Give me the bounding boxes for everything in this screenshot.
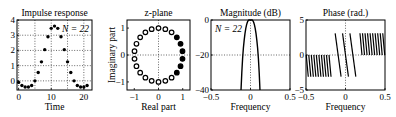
data-point — [43, 48, 46, 51]
data-point — [20, 84, 23, 87]
chart-title: Phase (rad.) — [323, 8, 368, 19]
x-axis-label: Frequency — [325, 102, 365, 112]
data-point — [50, 27, 53, 30]
panel-z-plane: −101−101z-planeReal partImaginary part — [107, 8, 190, 112]
zero-marker — [149, 79, 154, 84]
x-axis-label: Time — [45, 102, 65, 112]
phase-segment — [380, 33, 382, 55]
panel-impulse-response: 0102001234Impulse responseTimeN = 22 — [11, 8, 93, 112]
data-point — [27, 85, 30, 88]
zero-marker — [169, 75, 174, 80]
data-point — [79, 85, 82, 88]
phase-segment — [314, 55, 316, 77]
chart-title: Magnitude (dB) — [220, 8, 281, 19]
zero-marker — [134, 64, 139, 69]
data-point — [17, 81, 20, 84]
x-tick-label: 0.5 — [379, 92, 391, 102]
data-point — [69, 71, 72, 74]
phase-segment — [363, 33, 365, 55]
y-tick-label: 1 — [11, 61, 16, 71]
data-point — [30, 84, 33, 87]
x-tick-label: 0 — [248, 92, 253, 102]
phase-segment — [383, 33, 385, 55]
phase-segment — [319, 55, 321, 77]
y-tick-label: 2 — [11, 45, 16, 55]
zero-marker — [138, 35, 143, 40]
y-tick-label: 4 — [11, 15, 16, 25]
zero-marker-filled — [178, 42, 183, 47]
zero-marker — [132, 49, 137, 54]
x-tick-label: 1 — [180, 92, 185, 102]
zero-marker — [163, 27, 168, 32]
zero-marker — [156, 26, 161, 31]
data-point — [23, 85, 26, 88]
data-point — [33, 79, 36, 82]
annotation-n: N = 22 — [214, 24, 242, 34]
phase-segment — [378, 33, 380, 55]
phase-segment — [324, 55, 326, 77]
phase-segment — [329, 55, 331, 77]
data-point — [66, 60, 69, 63]
x-axis-label: Real part — [141, 102, 176, 112]
data-point — [40, 60, 43, 63]
zero-marker — [143, 75, 148, 80]
zero-marker — [132, 57, 137, 62]
y-tick-label: −20 — [195, 50, 210, 60]
y-tick-label: 3 — [11, 30, 16, 40]
zero-marker — [138, 70, 143, 75]
zero-marker — [143, 30, 148, 35]
zero-marker — [134, 42, 139, 47]
data-point — [63, 48, 66, 51]
phase-segment — [326, 55, 328, 77]
zero-marker-filled — [175, 70, 180, 75]
phase-segment — [360, 33, 362, 55]
x-tick-label: 20 — [79, 92, 89, 102]
data-point — [46, 35, 49, 38]
phase-segment — [311, 55, 313, 77]
zero-marker — [169, 30, 174, 35]
chart-title: Impulse response — [21, 8, 87, 18]
chart-title: z-plane — [145, 8, 173, 18]
y-tick-label: 0 — [11, 76, 16, 86]
data-point — [72, 79, 75, 82]
data-point — [85, 84, 88, 87]
y-tick-label: 0 — [300, 50, 305, 60]
phase-segment — [306, 55, 308, 77]
zero-marker — [156, 80, 161, 85]
data-point — [56, 27, 59, 30]
phase-segment — [365, 33, 367, 55]
y-tick-label: 5 — [300, 15, 305, 25]
x-tick-label: −1 — [129, 92, 139, 102]
x-tick-label: 0 — [156, 92, 161, 102]
panel-magnitude: −0.500.5−40−200Magnitude (dB)FrequencyN … — [195, 8, 296, 112]
y-tick-label: 0 — [121, 50, 126, 60]
data-point — [82, 85, 85, 88]
zero-marker-filled — [180, 49, 185, 54]
phase-segment — [368, 33, 370, 55]
panel-phase: −0.500.5−505Phase (rad.)Frequency — [294, 8, 391, 112]
zero-marker — [149, 27, 154, 32]
phase-segment — [321, 55, 323, 77]
data-point — [36, 71, 39, 74]
y-tick-label: −40 — [195, 85, 210, 95]
zero-marker — [163, 79, 168, 84]
zero-marker-filled — [175, 35, 180, 40]
phase-segment — [375, 33, 377, 55]
annotation-n: N = 22 — [61, 24, 89, 34]
phase-segment — [370, 33, 372, 55]
x-tick-label: 0 — [16, 92, 21, 102]
figure: 0102001234Impulse responseTimeN = 22−101… — [0, 0, 396, 117]
zero-marker-filled — [178, 64, 183, 69]
phase-segment — [316, 55, 318, 77]
x-axis-label: Frequency — [230, 102, 270, 112]
phase-segment — [309, 55, 311, 77]
x-tick-label: 10 — [47, 92, 57, 102]
y-tick-label: −5 — [294, 85, 304, 95]
y-tick-label: 1 — [121, 23, 126, 33]
zero-marker-filled — [180, 57, 185, 62]
data-point — [76, 84, 79, 87]
x-tick-label: 0 — [343, 92, 348, 102]
y-axis-label: Imaginary part — [107, 27, 117, 84]
y-tick-label: 0 — [205, 15, 210, 25]
phase-segment — [373, 33, 375, 55]
